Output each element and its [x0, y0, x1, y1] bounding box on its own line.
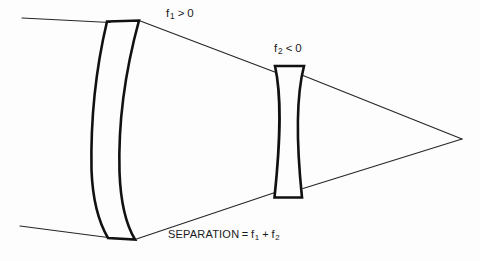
positive-meniscus-lens-outline	[91, 21, 139, 240]
lens-2-focal-length-label: f2<0	[274, 42, 302, 54]
f2-relation: <	[283, 42, 295, 54]
lower-incoming-ray-line	[20, 226, 108, 238]
upper-converging-ray-line	[139, 21, 276, 73]
optical-ray-diagram	[0, 0, 480, 261]
separation-plus: +	[260, 228, 272, 240]
lens-2-group	[275, 66, 305, 198]
f1-subscript: 1	[169, 12, 175, 21]
upper-exit-ray-line	[303, 76, 462, 140]
separation-equals: =	[239, 228, 251, 240]
f2-subscript: 2	[277, 47, 283, 56]
separation-term2-subscript: 2	[275, 233, 281, 242]
f1-relation: >	[175, 7, 187, 19]
f1-value: 0	[187, 7, 194, 19]
upper-incoming-ray-line	[22, 18, 110, 23]
diagram-canvas: f1>0 f2<0 SEPARATION=f1+f2	[0, 0, 480, 261]
lens-1-focal-length-label: f1>0	[166, 7, 194, 19]
ray-group	[20, 18, 462, 240]
separation-formula-label: SEPARATION=f1+f2	[168, 228, 280, 240]
lower-exit-ray-line	[303, 139, 462, 189]
separation-prefix: SEPARATION	[168, 228, 239, 240]
f2-value: 0	[295, 42, 302, 54]
lens-1-group	[91, 21, 139, 240]
separation-term1-subscript: 1	[254, 233, 260, 242]
biconcave-lens-outline	[275, 66, 305, 198]
